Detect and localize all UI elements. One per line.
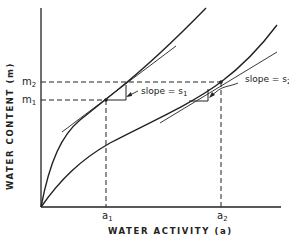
x-tick-a1: a1 — [102, 210, 113, 223]
x-tick-a2: a2 — [217, 210, 228, 223]
lower-curve — [41, 25, 277, 207]
slope-s2-label: slope = s2 — [245, 74, 289, 86]
point-a1-m1 — [104, 98, 108, 102]
point-a2-m2 — [219, 80, 223, 84]
y-axis-title: WATER CONTENT (m) — [5, 62, 15, 190]
slope-s1-label: slope = s1 — [141, 86, 187, 98]
y-tick-m1: m1 — [22, 94, 36, 107]
x-axis-title: WATER ACTIVITY (a) — [108, 226, 233, 236]
arrowhead-1-icon — [126, 92, 132, 97]
water-sorption-diagram: slope = s1 slope = s2 m2 m1 a1 a2 WATER … — [0, 0, 289, 239]
y-tick-m2: m2 — [22, 76, 36, 89]
slope-triangle-1 — [106, 85, 126, 100]
